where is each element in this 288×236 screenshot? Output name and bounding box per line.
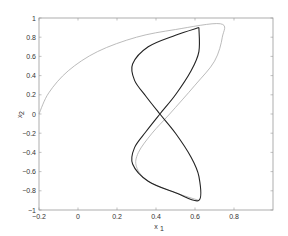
y-tick-label: −0.4 [22,149,36,156]
y-tick-label: 0 [32,111,36,118]
y-tick-label: 1 [32,15,36,22]
x-axis-label-sub: 1 [160,225,164,232]
transient-trajectory-line [39,24,225,201]
y-tick-label: −0.6 [22,168,36,175]
axes-box [39,18,273,210]
y-tick-label: 0.8 [26,34,36,41]
phase-plot: −0.200.20.40.60.8−1−0.8−0.6−0.4−0.200.20… [0,0,288,236]
x-tick-label: −0.2 [32,213,46,220]
y-tick-label: −0.8 [22,187,36,194]
y-tick-label: 0.2 [26,91,36,98]
y-tick-label: −0.2 [22,130,36,137]
x-tick-label: 0 [76,213,80,220]
x-axis-label: x [154,223,158,230]
y-tick-label: 0.6 [26,53,36,60]
x-tick-label: 0.6 [190,213,200,220]
y-axis-label-sub: 2 [18,111,25,115]
x-tick-label: 0.4 [151,213,161,220]
x-tick-label: 0.2 [112,213,122,220]
y-tick-label: −1 [28,207,36,214]
y-tick-label: 0.4 [26,72,36,79]
x-tick-label: 0.8 [229,213,239,220]
limit-cycle-line [132,28,201,201]
